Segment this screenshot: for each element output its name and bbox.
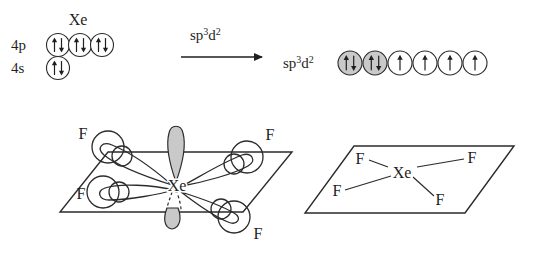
fluorine-p-orbital <box>218 201 250 233</box>
orbital-circle <box>91 34 114 57</box>
lone-pair-lobe-lower <box>165 208 180 229</box>
shape-ligand-label-f-bottom-left: F <box>333 182 342 199</box>
fluorine-p-orbital <box>87 176 119 208</box>
orbital-circle <box>47 34 70 57</box>
orbital-overlap-structure: F F F F <box>60 125 292 242</box>
orbital-circle <box>363 51 387 75</box>
reaction-arrow-group: sp3d2 <box>181 26 262 57</box>
hybrid-lobe <box>181 192 238 223</box>
orbital-box-4s-1 <box>47 57 70 80</box>
hybrid-orbital-box-3 <box>388 51 412 75</box>
hyb-sup2: 2 <box>216 26 221 37</box>
hybrid-orbital-box-4 <box>413 51 437 75</box>
ligand-group-top-right: F <box>182 126 275 186</box>
ligand-label-f-bottom-right: F <box>254 225 263 242</box>
orbital-box-4p-3 <box>91 34 114 57</box>
shell-label-4s: 4s <box>11 60 25 76</box>
bond-xe-f-top-right <box>417 159 464 167</box>
bond-xe-f-bottom-left <box>345 176 391 190</box>
ligand-label-f-top-right: F <box>266 126 275 143</box>
hybrid-state-orbitals: sp3d2 <box>283 51 487 75</box>
center-atom-label-overlap: Xe <box>168 177 187 194</box>
lone-pair-below <box>165 192 181 229</box>
hybrid-orbital-box-1 <box>338 51 362 75</box>
ground-state-orbitals: Xe 4p <box>11 11 114 80</box>
ground-state-atom-label: Xe <box>69 11 88 28</box>
orbital-box-4p-1 <box>47 34 70 57</box>
ligand-group-bottom-right: F <box>181 192 263 242</box>
bond-xe-f-bottom-right <box>413 177 434 196</box>
shell-label-4p: 4p <box>11 37 26 53</box>
fluorine-p-orbital-small <box>211 199 231 219</box>
hyb2-sup2: 2 <box>309 54 314 65</box>
fluorine-p-orbital-small <box>224 154 244 174</box>
hybrid-state-label: sp3d2 <box>283 54 314 71</box>
bond-xe-f-top-left <box>369 160 388 167</box>
lone-pair-lobe-dashed <box>167 192 181 210</box>
ligand-label-f-bottom-left: F <box>77 185 86 202</box>
orbital-circle <box>47 57 70 80</box>
orbital-box-4p-2 <box>69 34 92 57</box>
hybrid-orbital-box-6 <box>463 51 487 75</box>
hyb-base: sp <box>190 27 203 43</box>
reaction-arrow-label: sp3d2 <box>190 26 221 43</box>
ligand-group-top-left: F <box>79 125 172 185</box>
orbital-circle <box>338 51 362 75</box>
shape-ligand-label-f-top-left: F <box>356 150 365 167</box>
figure-canvas: Xe 4p <box>0 0 533 262</box>
hybrid-orbital-box-2 <box>363 51 387 75</box>
lone-pair-above <box>168 126 185 182</box>
hybridization-figure: Xe 4p <box>0 0 533 262</box>
ligand-label-f-top-left: F <box>79 125 88 142</box>
shape-ligand-label-f-bottom-right: F <box>436 191 445 208</box>
orbital-circle <box>69 34 92 57</box>
shape-ligand-label-f-top-right: F <box>468 149 477 166</box>
hybrid-orbital-box-5 <box>438 51 462 75</box>
center-atom-label-shape: Xe <box>393 164 412 181</box>
hyb2-base: sp <box>283 55 296 71</box>
shape-structure: F F F F Xe <box>305 146 514 213</box>
lone-pair-lobe <box>168 126 185 182</box>
